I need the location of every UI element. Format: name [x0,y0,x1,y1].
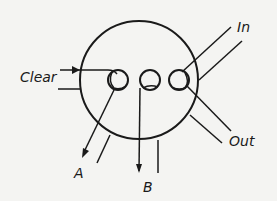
label-a: A [73,165,84,181]
label-out: Out [229,133,255,149]
label-clear: Clear [20,69,58,85]
label-b: B [143,179,153,195]
port-right-inner-arc [173,73,188,89]
clear-arrowhead-icon [72,66,80,74]
out-line-lower [190,115,222,143]
b-line-arrow [139,88,140,171]
a-line-arrow [84,90,114,152]
out-line-upper [187,86,231,131]
a-arrowhead-icon [82,148,89,158]
b-arrowhead-icon [136,164,142,173]
port-left-inner-arc [110,72,126,89]
valve-diagram: Clear In Out A B [0,0,277,201]
in-line-lower [199,41,242,80]
label-in: In [237,19,250,35]
clear-line [60,70,117,74]
a-line-outer [97,135,110,163]
